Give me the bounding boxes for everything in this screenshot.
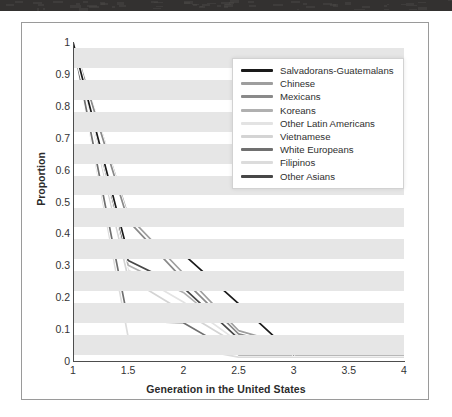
y-tick-label: 0.1	[36, 324, 70, 334]
artifact-speck	[384, 9, 389, 11]
figure-frame: 00.10.20.30.40.50.60.70.80.91 11.522.533…	[21, 22, 429, 400]
artifact-speck	[79, 8, 88, 11]
plot-wrapper: 00.10.20.30.40.50.60.70.80.91 11.522.533…	[22, 23, 430, 401]
background-band	[73, 271, 404, 291]
artifact-speck	[53, 1, 63, 3]
artifact-speck	[297, 9, 299, 11]
artifact-speck	[6, 4, 14, 5]
legend-label: Mexicans	[280, 91, 321, 102]
legend-label: Filipinos	[280, 157, 315, 168]
legend-item: Filipinos	[238, 156, 397, 169]
legend-label: Salvadorans-Guatemalans	[280, 65, 394, 76]
artifact-speck	[156, 6, 162, 7]
artifact-speck	[273, 4, 283, 6]
legend-label: Koreans	[280, 105, 316, 116]
legend-item: Salvadorans-Guatemalans	[238, 64, 397, 77]
legend-label: White Europeans	[280, 144, 354, 155]
x-tick-label: 2.5	[219, 364, 259, 376]
y-tick-label: 1	[36, 37, 70, 47]
artifact-speck	[303, 3, 307, 5]
artifact-speck	[184, 2, 189, 4]
legend-item: Other Latin Americans	[238, 117, 397, 130]
artifact-speck	[119, 5, 126, 6]
artifact-speck	[15, 1, 23, 3]
artifact-speck	[418, 7, 428, 10]
legend-swatch	[241, 148, 273, 151]
background-band	[73, 208, 404, 228]
legend-item: White Europeans	[238, 143, 397, 156]
legend-swatch	[241, 122, 273, 125]
artifact-speck	[221, 2, 231, 4]
artifact-speck	[117, 2, 124, 5]
artifact-speck	[409, 9, 417, 10]
background-band	[73, 303, 404, 323]
artifact-speck	[83, 1, 89, 3]
y-axis-line	[73, 42, 74, 362]
legend-item: Chinese	[238, 77, 397, 90]
background-band	[73, 239, 404, 259]
artifact-speck	[89, 6, 99, 8]
artifact-speck	[101, 3, 108, 5]
y-tick-label: 0.8	[36, 101, 70, 111]
legend-swatch	[241, 82, 273, 85]
artifact-speck	[248, 1, 254, 4]
artifact-speck	[43, 8, 45, 10]
legend-label: Chinese	[280, 78, 315, 89]
x-tick-label: 2	[163, 364, 203, 376]
legend-swatch	[241, 175, 273, 178]
legend-swatch	[241, 135, 273, 138]
artifact-speck	[225, 4, 230, 6]
y-tick-label: 0.3	[36, 260, 70, 270]
artifact-speck	[200, 6, 203, 7]
artifact-speck	[333, 4, 338, 6]
legend-swatch	[241, 109, 273, 112]
legend-label: Other Latin Americans	[280, 118, 375, 129]
legend-item: Koreans	[238, 104, 397, 117]
artifact-speck	[354, 9, 365, 10]
artifact-speck	[448, 0, 452, 1]
page-edge-artifact	[0, 0, 452, 11]
legend-swatch	[241, 69, 273, 73]
x-tick-label: 1.5	[108, 364, 148, 376]
x-axis-title: Generation in the United States	[22, 383, 430, 395]
artifact-speck	[37, 8, 39, 11]
artifact-speck	[414, 5, 417, 6]
artifact-speck	[217, 5, 221, 8]
x-tick-label: 4	[384, 364, 424, 376]
artifact-speck	[38, 4, 45, 6]
artifact-speck	[362, 6, 370, 8]
artifact-speck	[384, 5, 387, 7]
background-band	[73, 335, 404, 355]
legend-swatch	[241, 161, 273, 164]
artifact-speck	[112, 6, 115, 8]
legend-label: Vietnamese	[280, 131, 331, 142]
artifact-speck	[230, 0, 239, 2]
artifact-speck	[291, 1, 300, 3]
x-tick-label: 3	[274, 364, 314, 376]
legend-item: Mexicans	[238, 90, 397, 103]
artifact-speck	[306, 6, 315, 7]
legend-label: Other Asians	[280, 171, 335, 182]
y-axis-title: Proportion	[35, 119, 47, 239]
y-tick-label: 0.2	[36, 292, 70, 302]
artifact-speck	[249, 5, 256, 7]
artifact-speck	[151, 1, 158, 3]
legend-swatch	[241, 95, 273, 98]
artifact-speck	[153, 8, 161, 9]
artifact-speck	[345, 2, 351, 5]
y-tick-label: 0.9	[36, 69, 70, 79]
artifact-speck	[418, 2, 426, 4]
chart-legend: Salvadorans-GuatemalansChineseMexicansKo…	[232, 58, 404, 189]
artifact-speck	[76, 3, 80, 4]
artifact-speck	[224, 6, 227, 8]
x-tick-label: 3.5	[329, 364, 369, 376]
legend-item: Vietnamese	[238, 130, 397, 143]
x-tick-label: 1	[53, 364, 93, 376]
legend-item: Other Asians	[238, 170, 397, 183]
x-axis-line	[73, 361, 405, 362]
artifact-speck	[33, 2, 42, 4]
